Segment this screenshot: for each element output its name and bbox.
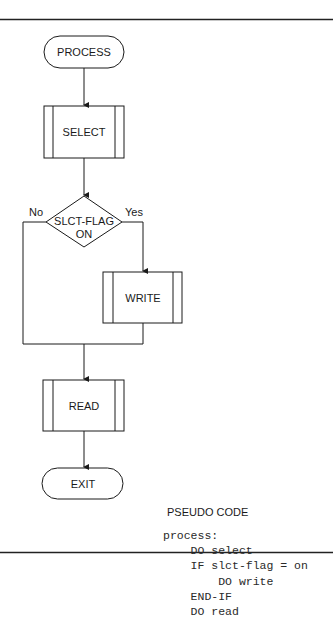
yes-branch-label: Yes — [125, 206, 143, 218]
pseudocode-title: PSEUDO CODE — [167, 506, 248, 518]
code-line: DO select — [163, 544, 253, 557]
write-label: WRITE — [125, 292, 160, 304]
yes-branch-line — [122, 222, 143, 271]
code-line: DO read — [163, 605, 239, 618]
read-label: READ — [69, 400, 100, 412]
select-label: SELECT — [63, 126, 106, 138]
decision-label-line1: SLCT-FLAG — [54, 215, 114, 227]
no-branch-label: No — [29, 206, 43, 218]
decision-label-line2: ON — [76, 228, 93, 240]
no-branch-line — [23, 222, 143, 344]
code-line: DO write — [163, 575, 273, 588]
pseudocode-block: process: DO select IF slct-flag = on DO … — [163, 528, 308, 619]
exit-label: EXIT — [71, 478, 96, 490]
process-label: PROCESS — [57, 46, 111, 58]
code-line: IF slct-flag = on — [163, 559, 308, 572]
code-line: END-IF — [163, 590, 232, 603]
code-line: process: — [163, 529, 218, 542]
